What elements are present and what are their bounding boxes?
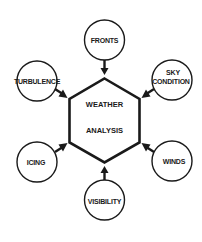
arrow-turbulence-to-center [55, 89, 68, 98]
arrow-winds-to-center [142, 143, 155, 152]
center-hexagon [70, 79, 140, 163]
weather-analysis-diagram: WEATHER ANALYSIS [0, 0, 202, 242]
node-icing-label: ICING [27, 159, 46, 166]
arrow-icing-to-center [55, 143, 68, 152]
node-sky-condition-label-line2: CONDITION [152, 78, 190, 85]
center-hexagon-group: WEATHER ANALYSIS [70, 79, 140, 163]
node-winds-label: WINDS [163, 158, 186, 165]
node-fronts: FRONTS [85, 20, 125, 60]
node-visibility: VISIBILITY [85, 180, 125, 220]
node-winds: WINDS [152, 141, 192, 181]
node-sky-condition-label-line1: SKY [166, 69, 180, 76]
node-turbulence: TURBULENCE [14, 61, 61, 101]
node-fronts-label: FRONTS [91, 37, 119, 44]
arrow-fronts-to-center [101, 60, 109, 75]
node-turbulence-label: TURBULENCE [14, 78, 61, 85]
arrow-visibility-to-center [101, 166, 109, 180]
center-label-line2: ANALYSIS [86, 126, 123, 135]
arrow-sky-condition-to-center [142, 89, 155, 98]
node-sky-condition: SKY CONDITION [152, 60, 192, 100]
node-visibility-label: VISIBILITY [88, 198, 122, 205]
node-icing: ICING [17, 142, 57, 182]
center-label-line1: WEATHER [86, 100, 124, 109]
